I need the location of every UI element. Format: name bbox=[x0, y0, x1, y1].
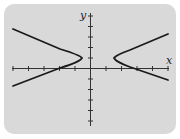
left-branch-curve bbox=[13, 29, 82, 86]
x-axis-label: x bbox=[166, 54, 173, 67]
right-branch-curve bbox=[114, 34, 168, 80]
y-axis-label: y bbox=[79, 9, 87, 22]
y-axis bbox=[88, 13, 93, 126]
hyperbola-plot: y x bbox=[0, 0, 180, 139]
